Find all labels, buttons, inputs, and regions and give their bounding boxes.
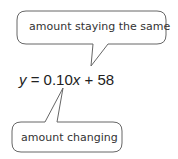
equation: y = 0.10x + 58 bbox=[19, 71, 114, 88]
equation-coefficient: = 0.10 bbox=[27, 71, 73, 88]
top-callout-label: amount staying the same bbox=[29, 20, 170, 33]
equation-y: y bbox=[19, 71, 27, 88]
equation-constant: + 58 bbox=[80, 71, 114, 88]
bottom-callout-label: amount changing bbox=[21, 131, 118, 144]
